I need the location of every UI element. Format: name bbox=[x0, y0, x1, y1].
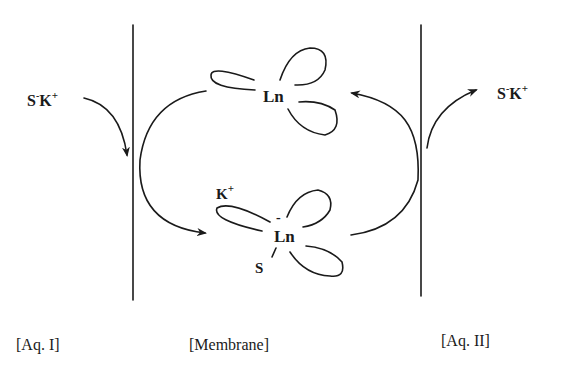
arrow-salt-out-of-membrane bbox=[427, 90, 476, 148]
anion-label: S bbox=[255, 260, 263, 276]
cation-label: K+ bbox=[216, 182, 234, 202]
compartment-label-aq1: [Aq. I] bbox=[16, 336, 60, 354]
ln-label: Ln bbox=[263, 87, 284, 106]
arrow-complex-to-carrier bbox=[351, 93, 418, 235]
transport-diagram: S-K+ Ln K+ - Ln S S-K+ [Aq. I] [Membrane… bbox=[0, 0, 580, 376]
complex-charge: - bbox=[276, 210, 281, 225]
free-carrier-ln: Ln bbox=[211, 48, 337, 135]
orbital-lobe bbox=[280, 48, 326, 85]
arrow-carrier-to-complex bbox=[140, 91, 206, 233]
right-salt-label: S-K+ bbox=[497, 82, 528, 102]
bond-to-anion bbox=[272, 248, 276, 257]
left-salt-label: S-K+ bbox=[27, 89, 58, 109]
orbital-lobe bbox=[211, 71, 255, 90]
compartment-label-aq2: [Aq. II] bbox=[441, 332, 490, 350]
ln-label: Ln bbox=[274, 227, 295, 246]
orbital-lobe bbox=[288, 102, 337, 135]
orbital-lobe bbox=[290, 246, 343, 276]
orbital-lobe bbox=[287, 190, 331, 227]
orbital-lobe bbox=[217, 206, 270, 231]
complex-ln: K+ - Ln S bbox=[216, 182, 343, 276]
compartment-label-membrane: [Membrane] bbox=[189, 336, 269, 353]
arrow-salt-into-membrane bbox=[84, 98, 127, 155]
